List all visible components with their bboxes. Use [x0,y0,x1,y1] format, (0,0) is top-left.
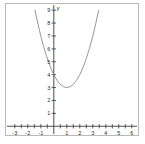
x-tick-labels: -3-2-1123456 [12,130,133,136]
y-axis-label: y [56,5,61,11]
svg-text:4: 4 [104,130,107,136]
svg-text:1: 1 [65,130,68,136]
svg-text:6: 6 [130,130,133,136]
svg-text:2: 2 [78,130,81,136]
svg-text:-3: -3 [12,130,17,136]
svg-text:6: 6 [47,46,50,52]
svg-text:7: 7 [47,33,50,39]
svg-text:2: 2 [47,97,50,103]
plot-canvas: -3-2-1123456 123456789 y [0,0,145,144]
svg-text:-2: -2 [25,130,30,136]
svg-text:-1: -1 [38,130,43,136]
svg-text:5: 5 [47,59,50,65]
y-tick-labels: 123456789 [47,7,50,116]
parabola-svg: -3-2-1123456 123456789 y [0,0,145,144]
svg-text:3: 3 [47,85,50,91]
svg-text:8: 8 [47,20,50,26]
parabola-curve [35,10,99,87]
chart-figure: -3-2-1123456 123456789 y [0,0,145,144]
svg-text:1: 1 [47,110,50,116]
svg-text:5: 5 [117,130,120,136]
svg-text:9: 9 [47,7,50,13]
svg-text:3: 3 [91,130,94,136]
svg-text:4: 4 [47,72,50,78]
